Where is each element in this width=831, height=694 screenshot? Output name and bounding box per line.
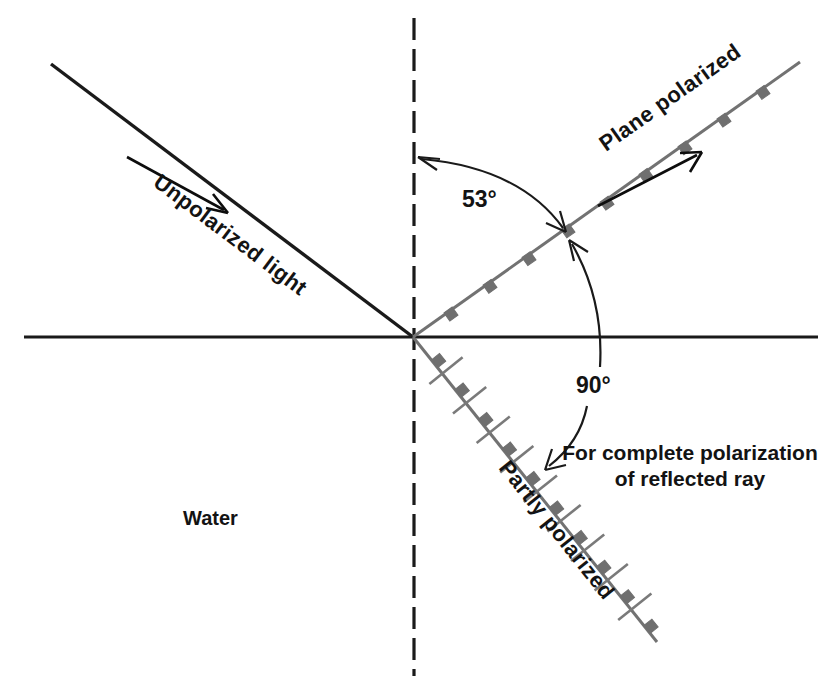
- incidence-angle-label: 53°: [462, 186, 497, 212]
- polarization-separation-arc: [545, 240, 600, 470]
- note-line-1: For complete polarization: [562, 441, 818, 464]
- reflected-ray-label: Plane polarized: [594, 39, 745, 156]
- incident-ray-label: Unpolarized light: [149, 169, 312, 301]
- separation-angle-label: 90°: [576, 372, 611, 398]
- diagram-canvas: Unpolarized light Plane polarized: [0, 0, 831, 694]
- refracted-ray-label: Partly polarized: [494, 456, 620, 605]
- reflected-ray-direction-arrow: [598, 152, 702, 206]
- incident-ray-line: [51, 64, 413, 337]
- note-line-2: of reflected ray: [615, 467, 766, 490]
- polarization-diagram: Unpolarized light Plane polarized: [0, 0, 831, 694]
- medium-label-water: Water: [183, 507, 238, 529]
